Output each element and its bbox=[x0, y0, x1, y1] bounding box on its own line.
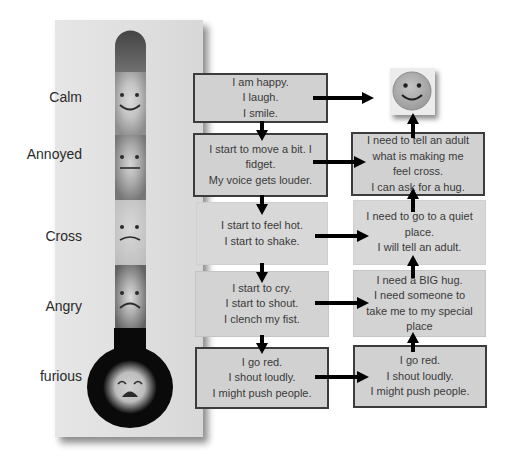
action-line: I need someone to bbox=[374, 288, 465, 304]
action-box-cross: I need to go to a quiet place. I will te… bbox=[353, 200, 486, 265]
action-line: place bbox=[406, 319, 432, 335]
feeling-line: I start to cry. bbox=[232, 281, 292, 297]
action-line: I can ask for a hug. bbox=[371, 180, 465, 196]
feeling-line: I clench my fist. bbox=[224, 312, 300, 328]
feeling-box-cross: I start to feel hot. I start to shake. bbox=[196, 202, 328, 265]
action-line: I go red. bbox=[400, 353, 440, 369]
level-label-cross: Cross bbox=[10, 227, 82, 245]
smiley-face-icon bbox=[390, 68, 435, 115]
feeling-line: I shout loudly. bbox=[228, 370, 295, 386]
feeling-line: I might push people. bbox=[212, 386, 311, 402]
level-label-angry: Angry bbox=[10, 297, 82, 315]
segment-calm bbox=[115, 72, 146, 135]
action-line: I might push people. bbox=[370, 384, 469, 400]
level-label-annoyed: Annoyed bbox=[10, 145, 82, 163]
segment-angry bbox=[115, 265, 146, 330]
feeling-line: I laugh. bbox=[242, 90, 278, 106]
feeling-line: I smile. bbox=[243, 106, 278, 122]
feeling-box-furious: I go red. I shout loudly. I might push p… bbox=[195, 347, 329, 409]
feeling-line: My voice gets louder. bbox=[209, 173, 312, 189]
action-box-angry: I need a BIG hug. I need someone to take… bbox=[353, 270, 486, 337]
feeling-line: fidget. bbox=[246, 157, 276, 173]
feeling-line: I start to feel hot. bbox=[221, 218, 303, 234]
feeling-line: I start to move a bit. I bbox=[209, 142, 312, 158]
feeling-box-calm: I am happy. I laugh. I smile. bbox=[193, 73, 328, 123]
action-box-furious: I go red. I shout loudly. I might push p… bbox=[353, 345, 487, 408]
segment-cross bbox=[115, 200, 146, 265]
level-label-calm: Calm bbox=[10, 88, 82, 106]
action-line: I need to go to a quiet bbox=[366, 209, 472, 225]
action-line: I shout loudly. bbox=[386, 369, 453, 385]
action-line: what is making me bbox=[372, 149, 463, 165]
level-label-furious: furious bbox=[10, 367, 82, 385]
goal-smiley-card bbox=[390, 68, 435, 115]
thermometer-top bbox=[115, 31, 146, 73]
feeling-line: I start to shout. bbox=[226, 296, 299, 312]
feeling-line: I am happy. bbox=[232, 75, 289, 91]
action-line: take me to my special bbox=[366, 304, 472, 320]
feeling-line: I go red. bbox=[242, 355, 282, 371]
action-line: I will tell an adult. bbox=[378, 240, 462, 256]
action-line: I need to tell an adult bbox=[367, 133, 469, 149]
action-line: feel cross. bbox=[393, 164, 443, 180]
feeling-line: I start to shake. bbox=[224, 234, 299, 250]
action-line: I need a BIG hug. bbox=[376, 273, 462, 289]
action-box-annoyed: I need to tell an adult what is making m… bbox=[351, 132, 485, 196]
action-line: place. bbox=[405, 225, 434, 241]
feeling-box-angry: I start to cry. I start to shout. I clen… bbox=[195, 271, 329, 337]
feeling-box-annoyed: I start to move a bit. I fidget. My voic… bbox=[193, 133, 328, 197]
